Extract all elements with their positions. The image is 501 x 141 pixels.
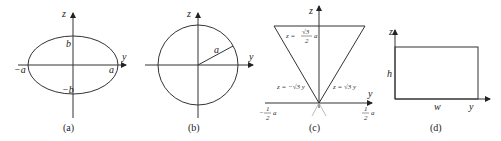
label-height: h bbox=[387, 68, 392, 79]
z-axis-label: z bbox=[308, 5, 313, 16]
label-left: −a bbox=[14, 64, 26, 75]
label-top: b bbox=[66, 38, 71, 49]
top-line-lhs: z = bbox=[285, 32, 295, 40]
y-axis-label: y bbox=[367, 88, 373, 99]
label-right: a bbox=[109, 64, 114, 75]
top-line-var: a bbox=[314, 32, 318, 40]
right-tick-denominator: 2 bbox=[364, 114, 368, 122]
label-bottom: −b bbox=[62, 84, 74, 95]
z-axis-label: z bbox=[61, 8, 66, 19]
top-line-numerator: √3 bbox=[302, 28, 310, 36]
figure-canvas: z y b −b −a a (a) z y a (b) z y z = √3 2… bbox=[0, 0, 501, 141]
y-axis-label: y bbox=[248, 51, 254, 62]
z-axis-label: z bbox=[388, 26, 393, 37]
label-radius: a bbox=[214, 44, 219, 55]
panel-c: z y z = √3 2 a z = −√3 y z = √3 y − 1 2 … bbox=[259, 5, 375, 134]
label-width: w bbox=[434, 101, 441, 112]
caption-c: (c) bbox=[309, 122, 320, 134]
y-axis-label: y bbox=[468, 101, 474, 112]
left-tick-denominator: 2 bbox=[266, 114, 270, 122]
rectangle-shape bbox=[395, 47, 478, 99]
left-tick-var: a bbox=[273, 109, 277, 117]
panel-d: z y h w (d) bbox=[387, 26, 490, 134]
panel-b: z y a (b) bbox=[145, 8, 254, 134]
right-tick-numerator: 1 bbox=[364, 105, 368, 113]
caption-b: (b) bbox=[188, 122, 200, 134]
y-axis-label: y bbox=[121, 51, 127, 62]
left-tick-numerator: 1 bbox=[266, 105, 270, 113]
left-tick-sign: − bbox=[259, 109, 264, 117]
panel-a: z y b −b −a a (a) bbox=[14, 8, 127, 134]
caption-d: (d) bbox=[430, 122, 442, 134]
extension-left bbox=[312, 103, 319, 116]
z-axis-label: z bbox=[186, 8, 191, 19]
caption-a: (a) bbox=[63, 122, 74, 134]
left-line-label: z = −√3 y bbox=[276, 83, 306, 91]
top-line-denominator: 2 bbox=[305, 37, 309, 45]
right-tick-var: a bbox=[371, 109, 375, 117]
extension-right bbox=[319, 103, 326, 116]
right-line-label: z = √3 y bbox=[332, 83, 357, 91]
